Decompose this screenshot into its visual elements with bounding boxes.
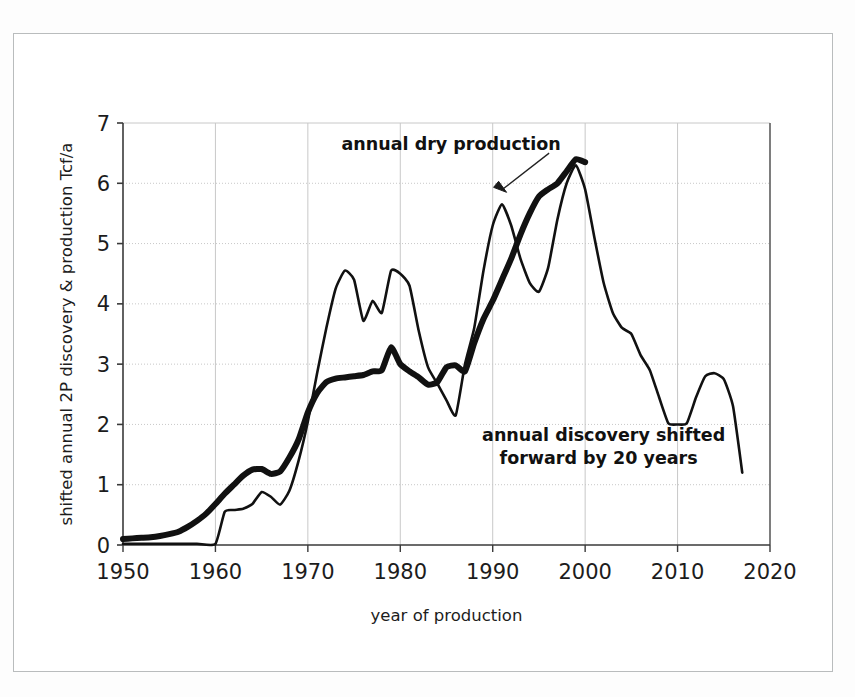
x-axis-tick-label: 1980: [374, 560, 427, 584]
line-chart-figure: 0123456719501960197019801990200020102020…: [0, 0, 855, 697]
x-axis-tick-label: 2020: [743, 560, 796, 584]
annotation-annual-discovery-line2: forward by 20 years: [500, 448, 698, 468]
y-axis-tick-label: 7: [97, 112, 110, 136]
x-axis-tick-label: 1950: [96, 560, 149, 584]
y-axis-tick-label: 5: [97, 232, 110, 256]
x-axis-tick-label: 2010: [651, 560, 704, 584]
x-axis-title: year of production: [371, 606, 523, 625]
grid-lines: [123, 123, 770, 545]
axis-lines: [123, 123, 770, 545]
annotation-annual-dry-production: annual dry production: [342, 134, 561, 154]
y-axis-tick-label: 1: [97, 473, 110, 497]
axis-titles: year of productionshifted annual 2P disc…: [57, 143, 522, 625]
annotation-leader-line: [503, 153, 550, 189]
x-axis-tick-label: 1970: [281, 560, 334, 584]
axis-tick-labels: 0123456719501960197019801990200020102020: [96, 112, 796, 585]
y-axis-tick-label: 3: [97, 353, 110, 377]
y-axis-tick-label: 0: [97, 534, 110, 558]
chart-annotations: annual dry productionannual discovery sh…: [342, 134, 726, 468]
x-axis-tick-label: 1960: [189, 560, 242, 584]
y-axis-tick-label: 2: [97, 413, 110, 437]
x-axis-tick-label: 1990: [466, 560, 519, 584]
x-axis-tick-label: 2000: [558, 560, 611, 584]
page-background: 0123456719501960197019801990200020102020…: [0, 0, 855, 697]
y-axis-title: shifted annual 2P discovery & production…: [57, 143, 76, 526]
series-line-production: [123, 159, 585, 539]
y-axis-tick-label: 6: [97, 172, 110, 196]
y-axis-tick-label: 4: [97, 292, 110, 316]
annotation-annual-discovery-line1: annual discovery shifted: [482, 425, 725, 445]
